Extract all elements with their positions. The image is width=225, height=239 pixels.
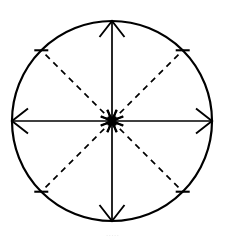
diagram-canvas: ·····: [0, 0, 225, 239]
radial-arrow-diagram: [0, 0, 225, 239]
